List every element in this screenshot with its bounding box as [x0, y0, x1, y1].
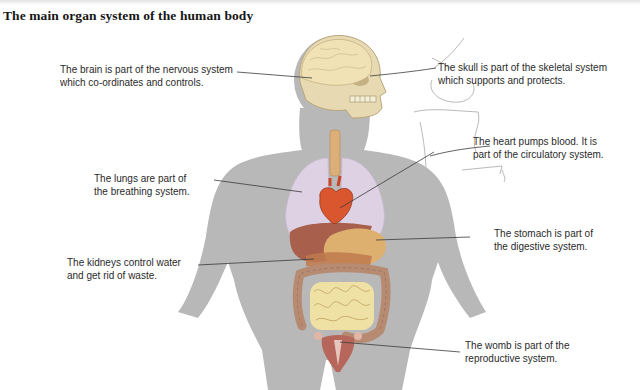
label-stomach: The stomach is part of the digestive sys… [494, 228, 593, 253]
label-brain-line1: The brain is part of the nervous system [60, 64, 233, 77]
label-kidneys-line2: and get rid of waste. [67, 270, 181, 283]
label-womb-line2: reproductive system. [465, 353, 570, 366]
label-kidneys-line1: The kidneys control water [67, 257, 181, 270]
label-brain: The brain is part of the nervous system … [60, 64, 233, 89]
label-lungs: The lungs are part of the breathing syst… [94, 173, 190, 198]
label-lungs-line2: the breathing system. [94, 186, 190, 199]
label-womb-line1: The womb is part of the [465, 340, 570, 353]
label-skull-line1: The skull is part of the skeletal system [438, 62, 607, 75]
label-lungs-line1: The lungs are part of [94, 173, 190, 186]
small-intestine [310, 282, 374, 330]
label-womb: The womb is part of the reproductive sys… [465, 340, 570, 365]
label-heart-line1: The heart pumps blood. It is [473, 136, 604, 149]
label-stomach-line2: the digestive system. [494, 241, 593, 254]
label-brain-line2: which co-ordinates and controls. [60, 77, 233, 90]
label-stomach-line1: The stomach is part of [494, 228, 593, 241]
label-kidneys: The kidneys control water and get rid of… [67, 257, 181, 282]
label-heart-line2: part of the circulatory system. [473, 149, 604, 162]
label-skull: The skull is part of the skeletal system… [438, 62, 607, 87]
label-skull-line2: which supports and protects. [438, 75, 607, 88]
trachea [330, 130, 340, 176]
teeth [350, 96, 376, 102]
label-heart: The heart pumps blood. It is part of the… [473, 136, 604, 161]
